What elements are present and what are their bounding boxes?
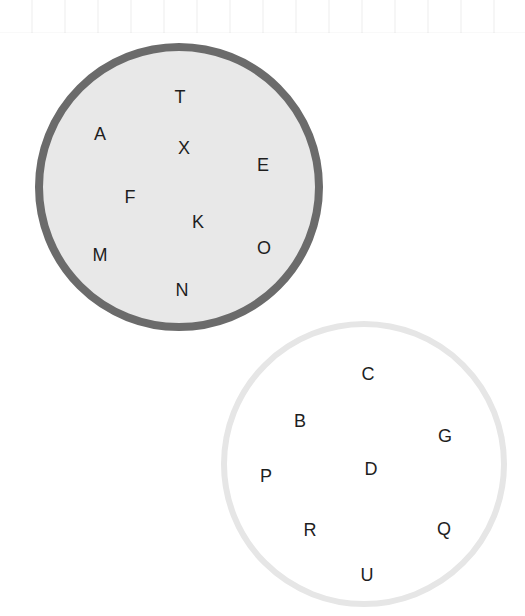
set-a-element: F bbox=[125, 188, 136, 206]
set-b-element: R bbox=[304, 521, 317, 539]
set-a-element: X bbox=[178, 139, 190, 157]
set-b-element: C bbox=[362, 365, 375, 383]
set-a-element: O bbox=[257, 239, 271, 257]
set-a-element: K bbox=[192, 213, 204, 231]
set-b-element: G bbox=[438, 427, 452, 445]
set-a-element: A bbox=[94, 125, 106, 143]
set-b-element: D bbox=[365, 460, 378, 478]
set-a-element: N bbox=[176, 281, 189, 299]
set-b-element: P bbox=[260, 467, 272, 485]
set-b-element: B bbox=[294, 412, 306, 430]
faint-grid-band bbox=[0, 0, 525, 33]
set-a-element: E bbox=[257, 156, 269, 174]
set-b-element: Q bbox=[437, 520, 451, 538]
set-b-element: U bbox=[361, 566, 374, 584]
set-a-element: M bbox=[93, 246, 108, 264]
set-a-element: T bbox=[175, 88, 186, 106]
